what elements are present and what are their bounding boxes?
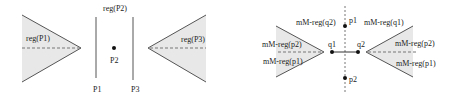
point-p2 (343, 76, 347, 80)
label-right-mm-reg-p2: mM-reg(p2) (395, 39, 435, 48)
label-q2: q2 (357, 40, 365, 49)
label-p2: p2 (349, 75, 357, 84)
label-reg-p3: reg(P3) (181, 35, 205, 44)
point-p1 (343, 24, 347, 28)
point-p2 (112, 46, 116, 50)
label-left-mm-reg-p1: mM-reg(p1) (263, 57, 303, 66)
label-q1: q1 (328, 40, 336, 49)
label-left-mm-reg-p2: mM-reg(p2) (262, 40, 302, 49)
label-reg-p1: reg(P1) (26, 34, 50, 43)
label-p3-line: P3 (131, 85, 139, 94)
label-p1: p1 (349, 16, 357, 25)
label-mm-reg-q2: mM-reg(q2) (296, 18, 336, 27)
point-q2 (356, 50, 360, 54)
left-diagram: reg(P1) reg(P2) P2 P1 P3 reg(P3) (22, 4, 206, 94)
label-reg-p2: reg(P2) (103, 4, 127, 13)
right-diagram: q1 q2 p1 p2 mM-reg(q2) mM-reg(q1) mM-reg… (262, 6, 436, 92)
label-right-mm-reg-p1: mM-reg(p1) (396, 59, 436, 68)
point-q1 (330, 50, 334, 54)
label-p1-line: P1 (93, 85, 101, 94)
label-p2: P2 (110, 56, 118, 65)
diagram-canvas: reg(P1) reg(P2) P2 P1 P3 reg(P3) q1 q2 p… (0, 0, 452, 97)
label-mm-reg-q1: mM-reg(q1) (364, 18, 404, 27)
